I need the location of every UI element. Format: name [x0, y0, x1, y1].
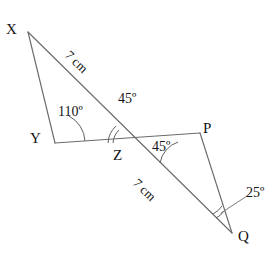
- angle-arc-Z-upper-inner: [113, 130, 119, 143]
- segment-XY: [28, 32, 55, 143]
- segment-XQ: [28, 32, 232, 233]
- vertex-label-P: P: [203, 121, 211, 136]
- vertex-label-Y: Y: [30, 131, 41, 146]
- angle-label-Q: 25º: [246, 186, 264, 200]
- vertex-label-X: X: [6, 22, 17, 37]
- vertex-label-Z: Z: [113, 148, 122, 163]
- angle-label-Y: 110º: [58, 105, 83, 119]
- angle-arc-Z-upper-outer: [108, 126, 116, 143]
- angle-arc-Y: [69, 116, 85, 141]
- angle-leader-line-Q: [221, 196, 247, 213]
- vertex-label-Q: Q: [238, 229, 249, 244]
- figure-canvas: [0, 0, 278, 260]
- geometry-diagram: X Y Z P Q 110º 45º 45º 25º 7 cm 7 cm: [0, 0, 278, 260]
- angle-label-Z-lower: 45º: [152, 140, 170, 154]
- angle-label-Z-upper: 45º: [118, 92, 136, 106]
- segment-YP: [55, 133, 200, 143]
